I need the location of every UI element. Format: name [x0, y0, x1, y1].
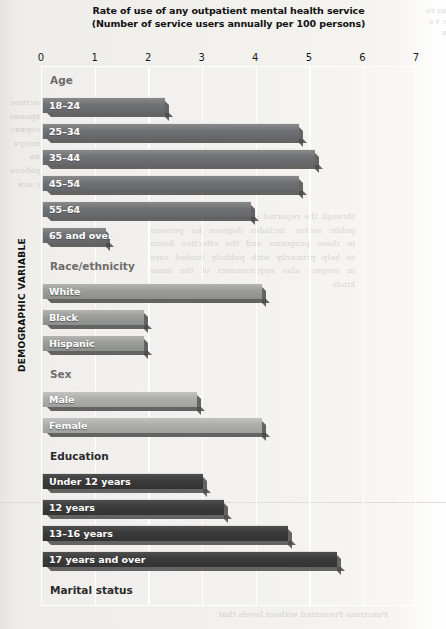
bar-35-44: 35–44 [42, 149, 315, 165]
bar-55-64: 55–64 [42, 201, 251, 217]
bar-3d-cap [315, 153, 319, 173]
bar-label: Male [49, 392, 75, 408]
bar-3d-cap [262, 421, 266, 441]
bar-label: Black [49, 310, 78, 326]
bar-3d-shadow [47, 139, 307, 143]
chart-title-line2: (Number of service users annually per 10… [41, 18, 416, 31]
y-axis-title: DEMOGRAPHIC VARIABLE [17, 205, 27, 405]
bar-3d-cap [299, 179, 303, 199]
bar-3d-cap [288, 529, 292, 549]
group-heading-education: Education [50, 450, 109, 462]
chart-title: Rate of use of any outpatient mental hea… [41, 5, 416, 30]
bar-3d-shadow [47, 165, 323, 169]
bar-45-54: 45–54 [42, 175, 299, 191]
plot-area: Age18–2425–3435–4445–5455–6465 and overR… [41, 66, 416, 606]
x-tick-0: 0 [38, 52, 44, 63]
bar-12-years: 12 years [42, 499, 224, 515]
bar-rows: Age18–2425–3435–4445–5455–6465 and overR… [42, 67, 415, 605]
bar-label: 35–44 [49, 150, 80, 166]
bar-hispanic: Hispanic [42, 335, 144, 351]
bar-label: 25–34 [49, 124, 80, 140]
bar-65-and-over: 65 and over [42, 227, 106, 243]
bar-3d-cap [165, 101, 169, 121]
bar-13-16-years: 13–16 years [42, 525, 288, 541]
bar-3d-cap [144, 313, 148, 333]
bar-female: Female [42, 417, 262, 433]
bar-white: White [42, 283, 262, 299]
bar-3d-cap [251, 205, 255, 225]
bar-label: 45–54 [49, 176, 80, 192]
bar-label: Under 12 years [49, 474, 131, 490]
group-heading-race-ethnicity: Race/ethnicity [50, 260, 135, 272]
bar-label: White [49, 284, 80, 300]
x-tick-1: 1 [91, 52, 97, 63]
chart-title-line1: Rate of use of any outpatient mental hea… [41, 5, 416, 18]
group-heading-sex: Sex [50, 368, 71, 380]
group-heading-age: Age [50, 74, 73, 86]
bar-3d-cap [203, 477, 207, 497]
bar-3d-shadow [47, 191, 307, 195]
bar-17-years-and-over: 17 years and over [42, 551, 337, 567]
bar-label: 17 years and over [49, 552, 145, 568]
bar-label: 65 and over [49, 228, 113, 244]
x-tick-3: 3 [199, 52, 205, 63]
bar-label: 12 years [49, 500, 95, 516]
bar-25-34: 25–34 [42, 123, 299, 139]
x-tick-2: 2 [145, 52, 151, 63]
x-tick-6: 6 [359, 52, 365, 63]
x-axis-ticks: 01234567 [0, 52, 446, 66]
bar-3d-cap [337, 555, 341, 575]
group-heading-marital-status: Marital status [50, 584, 133, 596]
bar-label: 18–24 [49, 98, 80, 114]
x-tick-5: 5 [306, 52, 312, 63]
bar-label: Female [49, 418, 88, 434]
bar-label: 13–16 years [49, 526, 113, 542]
bar-under-12-years: Under 12 years [42, 473, 203, 489]
bar-label: 55–64 [49, 202, 80, 218]
bar-3d-cap [144, 339, 148, 359]
bar-chart: Rate of use of any outpatient mental hea… [0, 0, 446, 629]
bar-3d-cap [262, 287, 266, 307]
bar-black: Black [42, 309, 144, 325]
bar-3d-cap [224, 503, 228, 523]
bar-male: Male [42, 391, 197, 407]
x-tick-4: 4 [252, 52, 258, 63]
bar-18-24: 18–24 [42, 97, 165, 113]
bar-3d-cap [299, 127, 303, 147]
x-tick-7: 7 [413, 52, 419, 63]
bar-3d-cap [197, 395, 201, 415]
bar-label: Hispanic [49, 336, 95, 352]
